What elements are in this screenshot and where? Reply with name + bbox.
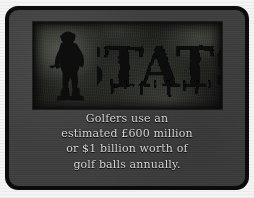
- caption-line-4: golf balls annually.: [9, 157, 245, 172]
- stats-card-inner: STATS: [9, 10, 245, 186]
- stats-card-frame: STATS: [5, 6, 249, 190]
- stats-card-root: STATS: [0, 0, 254, 198]
- caption-line-2: estimated £600 million: [9, 126, 245, 141]
- stats-caption: Golfers use an estimated £600 million or…: [9, 111, 245, 172]
- caption-line-3: or $1 billion worth of: [9, 141, 245, 156]
- caption-line-1: Golfers use an: [9, 111, 245, 126]
- banner-worn-edge: [33, 22, 222, 109]
- stats-banner: STATS: [33, 22, 222, 109]
